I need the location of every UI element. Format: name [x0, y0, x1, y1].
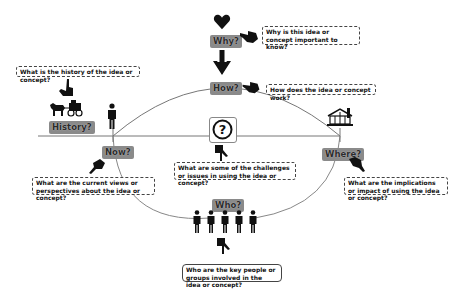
who-question-box: Who are the key people or groups involve…: [182, 264, 282, 282]
heart-icon: [213, 14, 231, 30]
pointing-hand-icon: [215, 145, 229, 161]
pointing-hand-icon: [88, 158, 106, 174]
why-label: Why?: [210, 35, 242, 48]
where-question-box: What are the implications or impact of u…: [344, 177, 448, 195]
history-question-box: What is the history of the idea or conce…: [16, 66, 140, 77]
horse-carriage-icon: [49, 99, 83, 117]
how-label: How?: [210, 82, 242, 95]
house-icon: [326, 107, 356, 127]
pointing-hand-icon: [348, 156, 366, 172]
arrow-down-icon: [212, 50, 232, 76]
svg-text:?: ?: [219, 122, 227, 137]
now-label: Now?: [102, 146, 134, 159]
person-icon: [107, 103, 117, 129]
pointing-hand-icon: [241, 80, 261, 95]
how-question-box: How does the idea or concept work?: [266, 84, 376, 95]
now-question-box: What are the current views or perspectiv…: [32, 177, 155, 195]
history-label: History?: [49, 121, 95, 134]
why-question-box: Why is this idea or concept important to…: [262, 26, 360, 45]
pointing-hand-icon: [217, 238, 231, 254]
challenges-question-box: What are some of the challenges or issue…: [174, 162, 296, 180]
pointing-hand-icon: [58, 79, 74, 97]
question-mark-icon: ?: [212, 119, 233, 140]
pointing-hand-icon: [239, 29, 259, 45]
group-of-people-icon: [192, 210, 258, 234]
